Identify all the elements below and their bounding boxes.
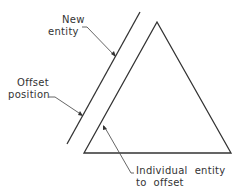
label-entity: entity xyxy=(48,26,79,37)
arrowhead-offset-position xyxy=(78,111,83,116)
label-position: position xyxy=(8,89,50,100)
label-offset: Offset xyxy=(17,77,49,88)
original-triangle xyxy=(84,22,231,153)
arrowhead-individual-entity xyxy=(103,125,107,130)
leader-offset-position xyxy=(49,97,82,115)
label-new: New xyxy=(62,14,82,25)
arrowhead-new-entity xyxy=(111,51,116,57)
label-individual-entity: Individual entity xyxy=(136,165,226,176)
offset-diagram: New entity Offset position Individual en… xyxy=(0,0,241,195)
leader-individual-entity xyxy=(104,126,134,173)
leader-new-entity xyxy=(82,27,115,56)
label-to-offset: to offset xyxy=(136,177,184,188)
